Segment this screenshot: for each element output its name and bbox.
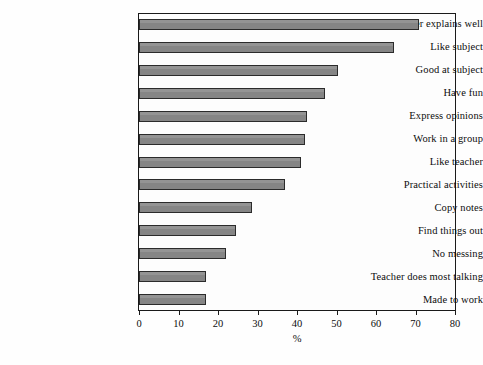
x-axis-tick [297, 311, 298, 315]
bar [139, 202, 252, 213]
x-axis-tick-label: 50 [317, 318, 357, 330]
x-axis-tick-label: 30 [238, 318, 278, 330]
bar-highlight [140, 203, 251, 206]
x-axis-tick-label: 40 [277, 318, 317, 330]
x-axis-tick [416, 311, 417, 315]
category-label: Made to work [349, 294, 483, 306]
x-axis-tick [337, 311, 338, 315]
category-label: Good at subject [349, 64, 483, 76]
x-axis-tick-label: 80 [435, 318, 475, 330]
bar-highlight [140, 135, 304, 138]
x-axis-tick [258, 311, 259, 315]
bar-highlight [140, 43, 393, 46]
bar [139, 42, 394, 53]
bar [139, 248, 226, 259]
bar [139, 225, 236, 236]
category-label: Work in a group [349, 133, 483, 145]
bar-highlight [140, 112, 306, 115]
bar-chart: Teacher explains wellLike subjectGood at… [0, 0, 483, 365]
category-label: Like teacher [349, 156, 483, 168]
x-axis-tick-label: 70 [396, 318, 436, 330]
category-label: Teacher does most talking [349, 271, 483, 283]
x-axis-tick [218, 311, 219, 315]
bar [139, 65, 338, 76]
bar-highlight [140, 249, 225, 252]
category-label: No messing [349, 248, 483, 260]
category-label: Copy notes [349, 202, 483, 214]
bar [139, 19, 419, 30]
bar [139, 88, 325, 99]
bar-highlight [140, 295, 205, 298]
category-label: Have fun [349, 87, 483, 99]
bar [139, 157, 301, 168]
bar-highlight [140, 272, 205, 275]
x-axis-tick [179, 311, 180, 315]
bar [139, 294, 206, 305]
x-axis-tick-label: 0 [119, 318, 159, 330]
bar-highlight [140, 158, 300, 161]
x-axis-tick [455, 311, 456, 315]
category-label: Find things out [349, 225, 483, 237]
x-axis-tick [376, 311, 377, 315]
x-axis-tick-label: 60 [356, 318, 396, 330]
x-axis-tick-label: 10 [159, 318, 199, 330]
x-axis-tick-label: 20 [198, 318, 238, 330]
bar [139, 271, 206, 282]
x-axis-title: % [138, 333, 456, 345]
bar-highlight [140, 89, 324, 92]
category-label: Express opinions [349, 110, 483, 122]
bar-highlight [140, 180, 284, 183]
bar [139, 179, 285, 190]
bar [139, 111, 307, 122]
bar [139, 134, 305, 145]
category-label: Practical activities [349, 179, 483, 191]
x-axis-tick [139, 311, 140, 315]
bar-highlight [140, 226, 235, 229]
bar-highlight [140, 66, 337, 69]
bar-highlight [140, 20, 418, 23]
